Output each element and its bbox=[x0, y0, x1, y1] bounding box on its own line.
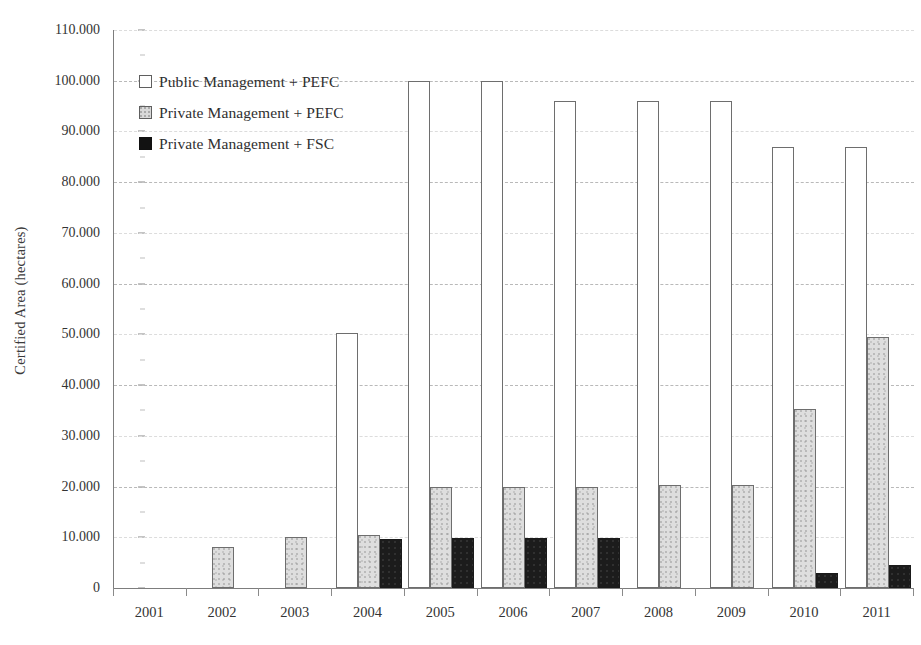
y-axis-tick-label: 30.000 bbox=[62, 428, 101, 444]
y-axis-tick-label: 80.000 bbox=[62, 174, 101, 190]
legend-swatch-icon bbox=[139, 137, 152, 150]
y-axis-tick-label: 20.000 bbox=[62, 479, 101, 495]
legend-item-label: Private Management + FSC bbox=[159, 135, 334, 153]
x-axis-tick-mark bbox=[549, 588, 550, 596]
x-axis-tick-labels: 2001200220032004200520062007200820092010… bbox=[113, 604, 913, 634]
x-axis-tick-label: 2004 bbox=[353, 604, 382, 621]
bar-group bbox=[841, 30, 914, 588]
bar bbox=[794, 409, 816, 588]
legend-swatch-icon bbox=[139, 106, 152, 119]
bar bbox=[732, 485, 754, 588]
x-axis-tick-mark bbox=[840, 588, 841, 596]
bar-group bbox=[623, 30, 696, 588]
bar bbox=[525, 538, 547, 588]
bar bbox=[285, 537, 307, 588]
legend-item: Private Management + PEFC bbox=[139, 97, 399, 128]
x-axis-tick-mark bbox=[258, 588, 259, 596]
bar bbox=[481, 81, 503, 588]
chart-legend: Public Management + PEFCPrivate Manageme… bbox=[139, 66, 399, 159]
bar-chart: Certified Area (hectares) 010.00020.0003… bbox=[0, 0, 921, 645]
y-axis-tick-label: 110.000 bbox=[55, 22, 100, 38]
y-axis-tick-labels: 010.00020.00030.00040.00050.00060.00070.… bbox=[38, 0, 106, 600]
x-axis-tick-mark bbox=[186, 588, 187, 596]
x-axis-tick-label: 2002 bbox=[208, 604, 237, 621]
x-axis-tick-label: 2006 bbox=[499, 604, 528, 621]
bar bbox=[452, 538, 474, 588]
y-axis-tick-label: 70.000 bbox=[62, 225, 101, 241]
x-axis-tick-label: 2008 bbox=[644, 604, 673, 621]
bar-group bbox=[405, 30, 478, 588]
bar bbox=[430, 487, 452, 588]
bar bbox=[598, 538, 620, 588]
legend-item-label: Private Management + PEFC bbox=[159, 104, 344, 122]
y-axis-tick-label: 60.000 bbox=[62, 276, 101, 292]
y-axis-tick-label: 40.000 bbox=[62, 377, 101, 393]
bar bbox=[380, 539, 402, 588]
y-axis-tick-label: 0 bbox=[93, 580, 100, 596]
bar bbox=[659, 485, 681, 588]
x-axis-tick-mark bbox=[622, 588, 623, 596]
legend-item: Private Management + FSC bbox=[139, 128, 399, 159]
x-axis-tick-label: 2009 bbox=[717, 604, 746, 621]
legend-item-label: Public Management + PEFC bbox=[159, 73, 339, 91]
x-axis-tick-label: 2005 bbox=[426, 604, 455, 621]
x-axis-tick-mark bbox=[477, 588, 478, 596]
x-axis-tick-label: 2003 bbox=[280, 604, 309, 621]
bar bbox=[637, 101, 659, 588]
bar bbox=[772, 147, 794, 588]
bar bbox=[816, 573, 838, 588]
x-axis-tick-mark bbox=[113, 588, 114, 596]
legend-item: Public Management + PEFC bbox=[139, 66, 399, 97]
bar bbox=[576, 487, 598, 588]
bar-group bbox=[769, 30, 842, 588]
bar bbox=[358, 535, 380, 588]
x-axis-tick-label: 2011 bbox=[862, 604, 890, 621]
y-axis-tick-label: 100.000 bbox=[55, 73, 101, 89]
x-axis-tick-mark bbox=[768, 588, 769, 596]
bar bbox=[503, 487, 525, 588]
x-axis-tick-mark bbox=[331, 588, 332, 596]
legend-swatch-icon bbox=[139, 75, 152, 88]
x-axis-tick-label: 2010 bbox=[789, 604, 818, 621]
bar bbox=[867, 337, 889, 588]
bar bbox=[408, 81, 430, 588]
x-axis-tick-mark bbox=[404, 588, 405, 596]
bar bbox=[336, 333, 358, 588]
y-axis-title: Certified Area (hectares) bbox=[0, 0, 40, 600]
bar-group bbox=[696, 30, 769, 588]
bar-group bbox=[550, 30, 623, 588]
y-axis-tick-label: 90.000 bbox=[62, 123, 101, 139]
y-axis-title-text: Certified Area (hectares) bbox=[12, 226, 29, 374]
bar-group bbox=[478, 30, 551, 588]
bar bbox=[212, 547, 234, 588]
x-axis-tick-label: 2007 bbox=[571, 604, 600, 621]
x-axis-tick-mark bbox=[913, 588, 914, 596]
y-axis-tick-label: 50.000 bbox=[62, 326, 101, 342]
x-axis-tick-mark bbox=[695, 588, 696, 596]
bar bbox=[554, 101, 576, 588]
bar bbox=[889, 565, 911, 588]
x-axis-tick-label: 2001 bbox=[135, 604, 164, 621]
bar bbox=[845, 147, 867, 588]
y-axis-tick-label: 10.000 bbox=[62, 529, 101, 545]
x-axis-tick-marks bbox=[113, 588, 913, 597]
bar bbox=[710, 101, 732, 588]
